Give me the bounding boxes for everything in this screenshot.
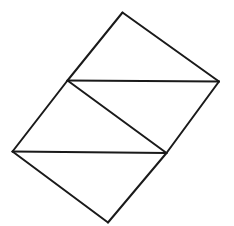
edge-top-right bbox=[123, 13, 220, 82]
edge-upper-left-lower-right bbox=[68, 81, 167, 154]
edge-top-upper-left bbox=[68, 13, 123, 81]
edge-left-lower-right bbox=[13, 152, 167, 154]
edge-lower-right-bottom bbox=[108, 153, 167, 223]
edge-upper-left-left bbox=[13, 81, 68, 152]
edge-upper-left-right bbox=[68, 81, 220, 82]
edge-right-lower-right bbox=[167, 82, 220, 154]
parallelogram-diagram bbox=[0, 0, 234, 226]
edge-left-bottom bbox=[13, 152, 109, 223]
